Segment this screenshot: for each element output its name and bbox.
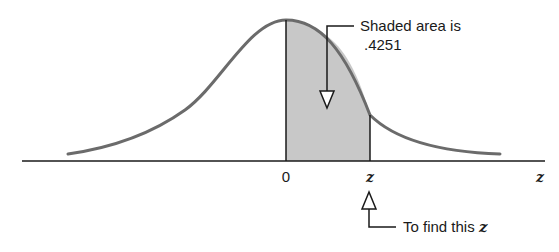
find-z-prefix: To find this	[403, 218, 479, 235]
zero-label: 0	[282, 168, 290, 185]
find-z-callout-line	[369, 209, 396, 227]
normal-curve-diagram: 0 z z Shaded area is .4251 To find this …	[0, 0, 559, 252]
up-arrow-icon	[362, 192, 376, 209]
shaded-area-label: Shaded area is	[360, 17, 461, 34]
normal-curve	[68, 20, 500, 154]
find-z-label: To find this z	[403, 218, 488, 236]
z-tick-label: z	[365, 169, 375, 185]
find-z-var: z	[478, 218, 488, 236]
axis-end-label: z	[535, 169, 545, 185]
shaded-area-value: .4251	[364, 36, 402, 53]
